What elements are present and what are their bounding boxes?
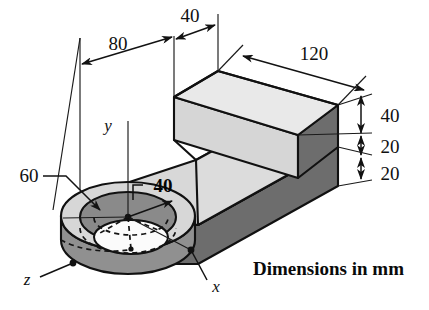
y-axis-label: y [102, 116, 112, 135]
dim-label-ht-20-a: 20 [381, 136, 400, 157]
dim-label-40-hole: 40 [154, 175, 173, 196]
engineering-drawing-figure: y x z 80 [0, 0, 429, 310]
ext-line-right-mid-b [338, 147, 372, 155]
z-axis-label: z [23, 270, 31, 289]
units-caption: Dimensions in mm [253, 258, 404, 279]
z-axis-leader [40, 263, 73, 277]
z-axis-arrow-dot [70, 260, 77, 267]
dim-label-ht-20-b: 20 [381, 163, 400, 184]
ext-line-left-boss [53, 38, 80, 210]
x-axis-arrow-dot [188, 247, 195, 254]
dim-label-80: 80 [109, 33, 128, 54]
bracket-solid [61, 71, 338, 274]
dim-label-40-top: 40 [181, 5, 200, 26]
dim-label-60: 60 [20, 165, 39, 186]
dim-line-40-top [176, 25, 215, 39]
x-axis-label: x [211, 277, 220, 296]
dim-label-120: 120 [300, 43, 329, 64]
hole-bottom-center-dot [128, 246, 133, 251]
dim-label-ht-40: 40 [381, 105, 400, 126]
ext-line-block-rear-right [218, 45, 243, 71]
ext-line-right-bottom [338, 180, 372, 186]
